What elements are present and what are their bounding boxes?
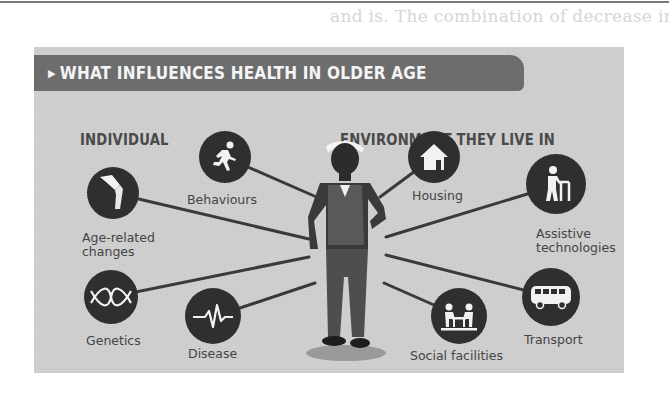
housing-node [408, 131, 460, 183]
bleed-through-text: and is. The combination of decrease in c… [330, 6, 669, 26]
social-facilities-node [431, 288, 487, 344]
disease-label: Disease [188, 347, 237, 361]
top-rule [0, 1, 669, 3]
header-band: ▶WHAT INFLUENCES HEALTH IN OLDER AGE [34, 55, 524, 91]
transport-label: Transport [524, 333, 583, 347]
social-facilities-label: Social facilities [410, 349, 503, 363]
house-icon [418, 141, 450, 173]
age-related-label: Age-related changes [82, 231, 155, 259]
walker-icon [539, 165, 573, 203]
running-person-icon [210, 140, 240, 174]
assistive-label: Assistive technologies [536, 227, 616, 255]
infographic-title: ▶WHAT INFLUENCES HEALTH IN OLDER AGE [48, 63, 427, 83]
bus-icon [529, 284, 573, 310]
transport-node [522, 268, 580, 326]
behaviours-node [199, 131, 251, 183]
age-related-node [87, 167, 139, 219]
infographic-panel: ▶WHAT INFLUENCES HEALTH IN OLDER AGE IND… [34, 47, 624, 373]
older-person-figure [296, 141, 396, 363]
section-title-individual: INDIVIDUAL [80, 131, 169, 149]
genetics-node [84, 270, 138, 324]
housing-label: Housing [412, 189, 463, 203]
disease-node [185, 288, 241, 344]
dna-helix-icon [89, 283, 133, 311]
heartbeat-icon [191, 301, 235, 331]
knee-joint-icon [96, 173, 130, 213]
genetics-label: Genetics [86, 334, 141, 348]
people-at-table-icon [437, 299, 481, 333]
assistive-node [526, 154, 586, 214]
triangle-marker-icon: ▶ [48, 67, 56, 80]
behaviours-label: Behaviours [187, 193, 257, 207]
